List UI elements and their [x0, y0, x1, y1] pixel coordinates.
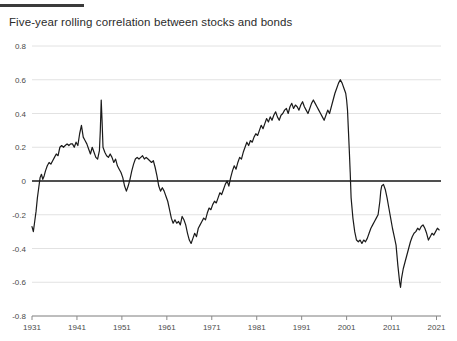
y-axis-tick-label: 0.6 — [15, 76, 27, 85]
y-axis-tick-label: 0.4 — [15, 110, 27, 119]
x-axis-tick-label: 2021 — [428, 323, 446, 332]
x-axis-tick-label: 1931 — [23, 323, 41, 332]
x-axis-tick-label: 1981 — [248, 323, 266, 332]
y-axis-ticks: 0.80.60.40.20-0.2-0.4-0.6-0.8 — [12, 42, 26, 321]
chart-container: 0.80.60.40.20-0.2-0.4-0.6-0.8 1931194119… — [0, 38, 457, 341]
y-axis-tick-label: 0.8 — [15, 42, 27, 51]
correlation-line-chart: 0.80.60.40.20-0.2-0.4-0.6-0.8 1931194119… — [0, 38, 457, 341]
x-axis-tick-label: 1991 — [293, 323, 311, 332]
x-axis-tick-label: 1971 — [203, 323, 221, 332]
y-axis-tick-label: 0 — [22, 177, 27, 186]
x-axis-tick-label: 1951 — [113, 323, 131, 332]
y-axis-tick-label: -0.8 — [12, 312, 26, 321]
y-axis-tick-label: -0.4 — [12, 245, 26, 254]
y-axis-tick-label: -0.2 — [12, 211, 26, 220]
x-axis-tick-label: 1941 — [68, 323, 86, 332]
x-axis-tick-label: 2011 — [383, 323, 401, 332]
y-axis-tick-label: 0.2 — [15, 143, 27, 152]
x-axis-tick-label: 2001 — [338, 323, 356, 332]
y-axis-tick-label: -0.6 — [12, 278, 26, 287]
x-axis-tick-label: 1961 — [158, 323, 176, 332]
correlation-series-line — [32, 80, 439, 288]
x-axis-ticks: 1931194119511961197119811991200120112021 — [23, 316, 446, 332]
title-rule — [0, 4, 84, 7]
page-title: Five-year rolling correlation between st… — [9, 16, 292, 28]
